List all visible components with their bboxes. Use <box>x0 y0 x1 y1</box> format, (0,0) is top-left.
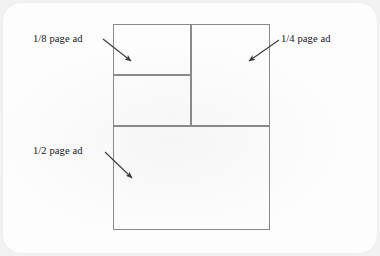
page-layout-diagram <box>113 24 270 230</box>
ad-region-eighth-top <box>113 24 191 75</box>
label-quarter-page-ad: 1/4 page ad <box>281 33 331 44</box>
ad-region-eighth-bottom <box>113 75 191 126</box>
screenshot-root: 1/8 page ad 1/4 page ad 1/2 page ad <box>0 0 380 256</box>
label-eighth-page-ad: 1/8 page ad <box>33 33 83 44</box>
label-half-page-ad: 1/2 page ad <box>33 145 83 156</box>
ad-region-quarter <box>191 24 270 126</box>
ad-region-half <box>113 126 270 230</box>
